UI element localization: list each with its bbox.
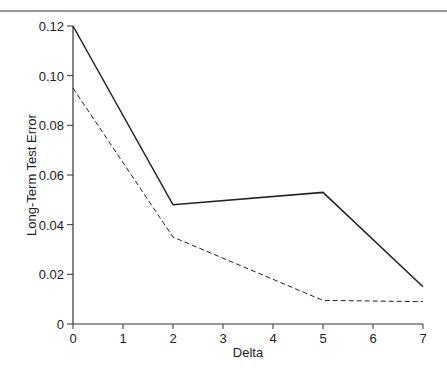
y-tick-label: 0.12 (39, 19, 64, 34)
y-tick-label: 0.10 (39, 69, 64, 84)
y-axis-label: Long-Term Test Error (24, 113, 39, 236)
x-tick-label: 0 (69, 331, 76, 346)
x-tick-label: 7 (419, 331, 426, 346)
x-tick-label: 4 (269, 331, 276, 346)
x-tick-label: 1 (119, 331, 126, 346)
y-tick-label: 0.08 (39, 118, 64, 133)
series-lines (73, 26, 423, 302)
y-tick-label: 0.06 (39, 168, 64, 183)
x-tick-label: 5 (319, 331, 326, 346)
line-chart: 0123456700.020.040.060.080.100.12 Delta … (0, 0, 447, 377)
x-tick-label: 2 (169, 331, 176, 346)
y-tick-label: 0 (57, 317, 64, 332)
solid-line (73, 26, 423, 287)
x-tick-label: 3 (219, 331, 226, 346)
x-axis-label: Delta (233, 345, 264, 360)
y-tick-label: 0.04 (39, 218, 64, 233)
y-tick-label: 0.02 (39, 267, 64, 282)
x-tick-label: 6 (369, 331, 376, 346)
